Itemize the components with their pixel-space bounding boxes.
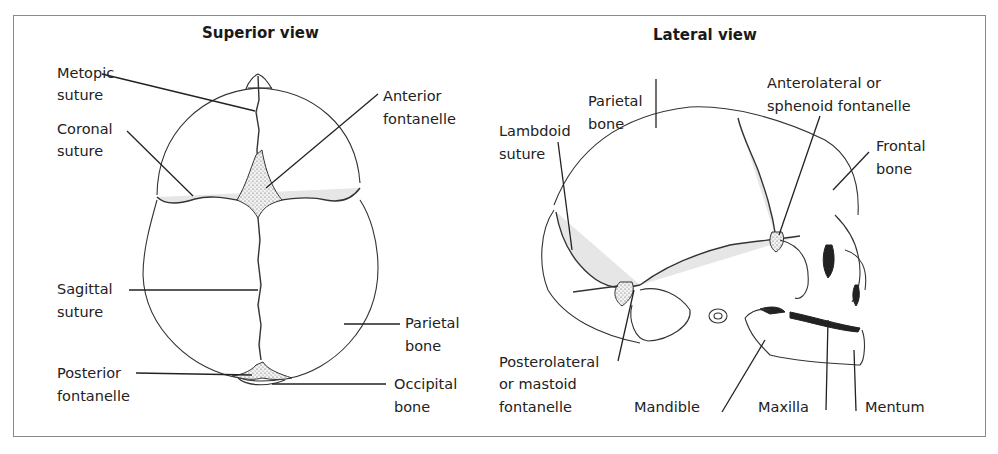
label-sagittal-suture: Sagittal <box>57 281 113 297</box>
label-sphenoid-fontanelle: Anterolateral or <box>767 75 881 91</box>
label-coronal-suture: Coronal <box>57 121 113 137</box>
superior-view-panel: Superior view <box>57 24 460 415</box>
label-posterior-fontanelle: Posterior <box>57 365 121 381</box>
label-mandible: Mandible <box>634 399 700 415</box>
label-mastoid-fontanelle: Posterolateral <box>499 354 599 370</box>
label-lambdoid-suture: Lambdoid <box>499 123 571 139</box>
lateral-view-panel: Lateral view <box>499 26 926 415</box>
label-maxilla: Maxilla <box>758 399 809 415</box>
label-parietal-bone-superior: Parietal <box>405 315 460 331</box>
label-lambdoid-suture-line2: suture <box>499 146 545 162</box>
label-parietal-bone-lateral-line2: bone <box>588 116 624 132</box>
label-parietal-bone-superior-line2: bone <box>405 338 441 354</box>
skull-diagram: Superior view <box>0 0 998 454</box>
label-mastoid-fontanelle-line2: or mastoid <box>499 376 577 392</box>
label-metopic-suture: Metopic <box>57 65 114 81</box>
label-metopic-suture-line2: suture <box>57 87 103 103</box>
superior-view-title: Superior view <box>202 24 319 42</box>
label-mentum: Mentum <box>865 399 925 415</box>
label-sphenoid-fontanelle-line2: sphenoid fontanelle <box>767 98 911 114</box>
label-occipital-bone-line2: bone <box>394 399 430 415</box>
label-anterior-fontanelle-line2: fontanelle <box>383 111 456 127</box>
label-frontal-bone-line2: bone <box>876 161 912 177</box>
lateral-view-title: Lateral view <box>653 26 757 44</box>
superior-skull-drawing <box>143 74 378 385</box>
lateral-skull-drawing <box>542 107 866 365</box>
label-sagittal-suture-line2: suture <box>57 304 103 320</box>
label-posterior-fontanelle-line2: fontanelle <box>57 388 130 404</box>
label-occipital-bone: Occipital <box>394 376 457 392</box>
label-anterior-fontanelle: Anterior <box>383 88 442 104</box>
label-mastoid-fontanelle-line3: fontanelle <box>499 399 572 415</box>
label-frontal-bone: Frontal <box>876 138 926 154</box>
label-parietal-bone-lateral: Parietal <box>588 93 643 109</box>
label-coronal-suture-line2: suture <box>57 143 103 159</box>
